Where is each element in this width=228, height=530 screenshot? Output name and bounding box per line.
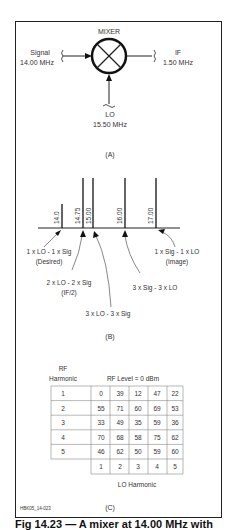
line-label-15-00: 15.00 <box>85 207 92 224</box>
svg-text:50: 50 <box>134 448 142 455</box>
svg-text:RF: RF <box>59 365 68 372</box>
panel-b-spectrum: 14.0 14.75 15.00 16.00 17.00 1 x LO - 1 … <box>27 178 200 341</box>
svg-text:35: 35 <box>134 419 142 426</box>
mixer-title: MIXER <box>98 28 120 35</box>
panel-a-tag: (A) <box>105 151 114 159</box>
figure-caption: Fig 14.23 — A mixer at 14.00 MHz with <box>15 518 213 530</box>
lo-freq: 15.50 MHz <box>93 121 127 128</box>
lo3-annotation: 3 x LO - 3 x Sig <box>86 310 131 318</box>
panel-a-mixer: MIXER Signal 14.00 MHz IF 1.50 MHz LO 15… <box>20 28 193 159</box>
panel-c-tag: (C) <box>105 504 115 512</box>
desired-annotation: 1 x LO - 1 x Sig <box>27 248 72 256</box>
rf-row-4: 4 <box>61 434 65 441</box>
rf-row-3: 3 <box>61 419 65 426</box>
svg-text:47: 47 <box>153 390 161 397</box>
svg-text:(Desired): (Desired) <box>36 258 63 266</box>
lo-arrow-icon <box>106 74 112 81</box>
svg-text:0: 0 <box>99 390 103 397</box>
svg-text:22: 22 <box>171 390 179 397</box>
svg-text:75: 75 <box>153 434 161 441</box>
rf-row-2: 2 <box>61 405 65 412</box>
svg-text:39: 39 <box>116 390 124 397</box>
panel-c-table: RF Harmonic RF Level = 0 dBm 1 0 39 12 4… <box>20 365 183 512</box>
svg-text:36: 36 <box>171 419 179 426</box>
signal-freq: 14.00 MHz <box>20 59 54 66</box>
svg-text:58: 58 <box>134 434 142 441</box>
line-label-14-75: 14.75 <box>74 207 81 224</box>
if-freq: 1.50 MHz <box>163 59 193 66</box>
svg-text:69: 69 <box>153 405 161 412</box>
line-label-14-0: 14.0 <box>53 211 60 224</box>
panel-b-tag: (B) <box>105 333 114 341</box>
svg-text:53: 53 <box>171 405 179 412</box>
sig3-annotation: 3 x Sig - 3 x LO <box>133 284 178 292</box>
rf-harmonic-label: Harmonic <box>49 375 78 382</box>
svg-text:33: 33 <box>97 419 105 426</box>
lo-label: LO <box>105 111 115 118</box>
svg-text:62: 62 <box>171 434 179 441</box>
lo-harmonic-1: 1 <box>99 463 103 470</box>
svg-text:46: 46 <box>97 448 105 455</box>
svg-text:60: 60 <box>171 448 179 455</box>
svg-text:59: 59 <box>153 419 161 426</box>
lo-harmonic-2: 2 <box>118 463 122 470</box>
svg-text:(IF/2): (IF/2) <box>61 289 77 297</box>
svg-text:55: 55 <box>97 405 105 412</box>
svg-text:62: 62 <box>116 448 124 455</box>
lo-harmonic-3: 3 <box>136 463 140 470</box>
line-label-16-00: 16.00 <box>116 207 123 224</box>
signal-label: Signal <box>30 49 50 57</box>
if2-annotation: 2 x LO - 2 x Sig <box>47 279 92 287</box>
lo-harmonic-5: 5 <box>173 463 177 470</box>
svg-text:60: 60 <box>134 405 142 412</box>
svg-text:70: 70 <box>97 434 105 441</box>
svg-text:68: 68 <box>116 434 124 441</box>
image-annotation: 1 x Sig - 1 x LO <box>155 248 200 256</box>
if-label: IF <box>175 49 181 56</box>
rf-row-5: 5 <box>61 448 65 455</box>
lo-harmonic-label: LO Harmonic <box>118 481 157 488</box>
svg-text:59: 59 <box>153 448 161 455</box>
lo-harmonic-4: 4 <box>155 463 159 470</box>
rf-level-label: RF Level = 0 dBm <box>107 375 159 382</box>
rf-row-1: 1 <box>61 390 65 397</box>
svg-text:12: 12 <box>134 390 142 397</box>
svg-text:(Image): (Image) <box>166 258 188 266</box>
svg-text:49: 49 <box>116 419 124 426</box>
line-label-17-00: 17.00 <box>147 207 154 224</box>
figure-id: HBK05_14-023 <box>20 506 51 511</box>
svg-text:71: 71 <box>116 405 124 412</box>
